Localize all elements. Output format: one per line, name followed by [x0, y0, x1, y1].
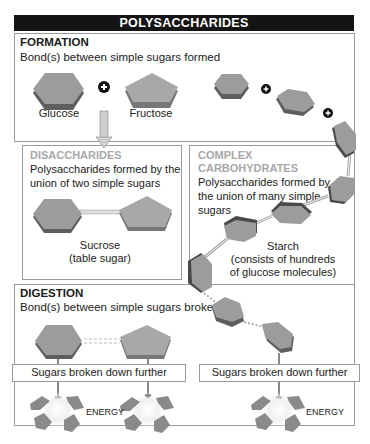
step-right-label: Sugars broken down further — [212, 366, 348, 378]
glucose-hexagon-icon — [33, 73, 84, 110]
glucose-hexagon-icon — [276, 89, 315, 116]
sucrose-molecule-icon — [33, 196, 172, 233]
step-left-label: Sugars broken down further — [31, 366, 167, 378]
energy-burst-icon — [120, 392, 174, 433]
glucose-hexagon-icon — [262, 322, 294, 353]
step-box-left: Sugars broken down further — [12, 364, 186, 382]
plus-icon — [98, 81, 110, 93]
down-arrow-icon — [96, 111, 112, 148]
digestion-fructose-icon — [120, 325, 171, 359]
digestion-glucose-icon — [35, 325, 82, 359]
glucose-hexagon-icon — [212, 297, 244, 327]
energy-burst-icon — [30, 392, 84, 432]
fructose-pentagon-icon — [125, 73, 178, 108]
glucose-hexagon-icon — [214, 74, 249, 99]
starch-chain-icon — [188, 121, 356, 293]
energy-label-right: ENERGY — [306, 407, 344, 417]
step-box-right: Sugars broken down further — [199, 364, 360, 382]
broken-bond-icon — [244, 322, 264, 327]
plus-icon — [261, 84, 271, 94]
energy-label-left: ENERGY — [86, 407, 124, 417]
plus-icon — [323, 108, 333, 118]
energy-burst-icon — [251, 392, 305, 432]
